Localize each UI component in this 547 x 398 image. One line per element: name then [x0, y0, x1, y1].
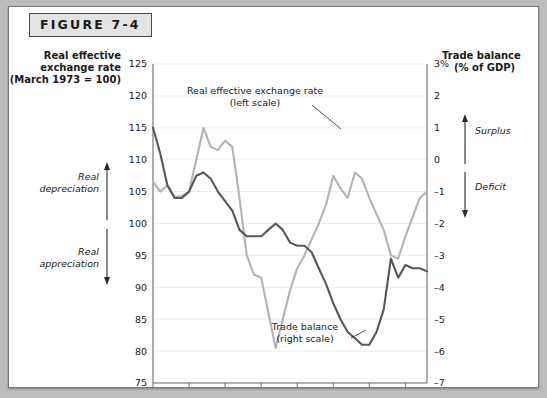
real-depreciation-label-line2: depreciation — [39, 183, 99, 194]
surplus-label: Surplus — [475, 125, 511, 136]
deficit-label: Deficit — [475, 181, 507, 192]
series-lines — [153, 128, 427, 348]
right-tick-label: –3 — [434, 250, 445, 261]
right-tick-label: 0 — [434, 154, 440, 165]
right-axis-title-line2: (% of GDP) — [454, 62, 515, 73]
real-appreciation-label-line2: appreciation — [39, 258, 99, 269]
exchange-rate-annotation-line2: (left scale) — [230, 97, 280, 108]
deficit-arrow — [462, 172, 468, 218]
right-axis-tick-labels: 3%210–1–2–3–4–5–6–7 — [434, 58, 449, 387]
left-tick-label: 115 — [129, 122, 147, 133]
trade-balance-annotation-line1: Trade balance — [271, 321, 339, 332]
left-tick-label: 85 — [135, 314, 147, 325]
left-axis-title-line3: (March 1973 = 100) — [10, 74, 121, 85]
real-depreciation-arrow — [104, 162, 110, 220]
left-tick-label: 75 — [135, 377, 147, 387]
x-tick-marks — [153, 383, 405, 387]
right-tick-label: 1 — [434, 122, 440, 133]
left-tick-label: 120 — [129, 90, 147, 101]
right-tick-label: –4 — [434, 282, 445, 293]
real-depreciation-label-line1: Real — [78, 171, 99, 182]
trade-balance-leader-line — [351, 330, 366, 338]
right-axis-title-line1: Trade balance — [442, 50, 521, 61]
left-tick-label: 100 — [129, 218, 147, 229]
chart-canvas: 1251201151101051009590858075 3%210–1–2–3… — [9, 7, 538, 387]
trade-balance-annotation-line2: (right scale) — [276, 333, 333, 344]
left-tick-label: 90 — [135, 282, 147, 293]
left-tick-label: 105 — [129, 186, 147, 197]
exchange-rate-leader-line — [312, 105, 341, 129]
left-tick-label: 110 — [129, 154, 147, 165]
left-axis-title-line1: Real effective — [44, 50, 121, 61]
right-tick-label: –1 — [434, 186, 445, 197]
figure-frame: FIGURE 7-4 1251201151101051009590858075 … — [8, 6, 539, 388]
left-axis-tick-labels: 1251201151101051009590858075 — [129, 58, 147, 387]
right-tick-label: –5 — [434, 314, 445, 325]
exchange-rate-annotation-line1: Real effective exchange rate — [187, 85, 323, 96]
right-tick-label: –2 — [434, 218, 445, 229]
series-line-exchange-rate — [153, 128, 427, 348]
right-tick-label: –6 — [434, 346, 445, 357]
surplus-arrow — [462, 114, 468, 164]
real-appreciation-label-line1: Real — [78, 246, 99, 257]
left-tick-label: 80 — [135, 346, 147, 357]
left-axis-title-line2: exchange rate — [40, 62, 121, 73]
right-tick-label: –7 — [434, 377, 445, 387]
real-appreciation-arrow — [104, 229, 110, 285]
left-tick-label: 95 — [135, 250, 147, 261]
right-tick-label: 2 — [434, 90, 440, 101]
left-tick-label: 125 — [129, 58, 147, 69]
